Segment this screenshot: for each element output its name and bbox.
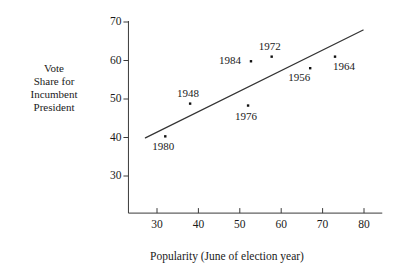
x-tick-label: 30: [144, 218, 170, 230]
point-label-1976: 1976: [235, 110, 257, 122]
data-point: [189, 102, 191, 104]
x-tick-label: 40: [185, 218, 211, 230]
y-axis-title-line: Vote: [18, 62, 90, 75]
point-label-1972: 1972: [259, 40, 281, 52]
x-axis-title: Popularity (June of election year): [150, 250, 390, 263]
y-axis-title-line: Incumbent: [18, 88, 90, 101]
plot-canvas: [0, 0, 398, 275]
x-tick-label: 50: [227, 218, 253, 230]
y-axis-title-line: Share for: [18, 75, 90, 88]
data-point: [334, 55, 336, 57]
point-label-1984: 1984: [219, 54, 241, 66]
point-label-1956: 1956: [288, 71, 310, 83]
point-label-1948: 1948: [177, 87, 199, 99]
y-tick-label: 70: [97, 15, 121, 27]
y-tick-label: 30: [97, 169, 121, 181]
y-tick-label: 50: [97, 92, 121, 104]
data-point: [164, 135, 166, 137]
y-axis-title: VoteShare forIncumbentPresident: [18, 62, 90, 114]
y-tick-label: 40: [97, 131, 121, 143]
y-tick-label: 60: [97, 54, 121, 66]
data-point: [270, 55, 272, 57]
scatter-plot-figure: VoteShare forIncumbentPresident Populari…: [0, 0, 398, 275]
regression-line: [145, 30, 363, 138]
y-axis-title-line: President: [18, 101, 90, 114]
point-label-1980: 1980: [152, 140, 174, 152]
data-point: [250, 60, 252, 62]
data-point: [309, 67, 311, 69]
data-point: [247, 104, 249, 106]
x-tick-label: 60: [268, 218, 294, 230]
x-tick-label: 70: [310, 218, 336, 230]
x-tick-label: 80: [351, 218, 377, 230]
point-label-1964: 1964: [333, 60, 355, 72]
